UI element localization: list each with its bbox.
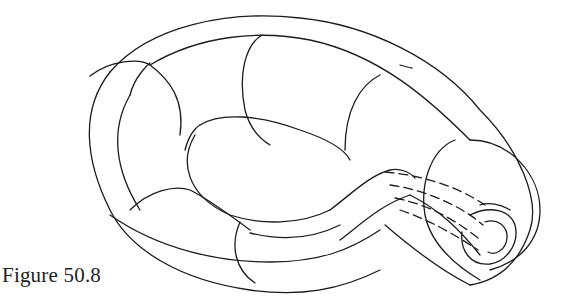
figure: Figure 50.8 bbox=[0, 0, 575, 306]
figure-caption: Figure 50.8 bbox=[2, 263, 101, 288]
klein-bottle-illustration bbox=[0, 0, 575, 306]
